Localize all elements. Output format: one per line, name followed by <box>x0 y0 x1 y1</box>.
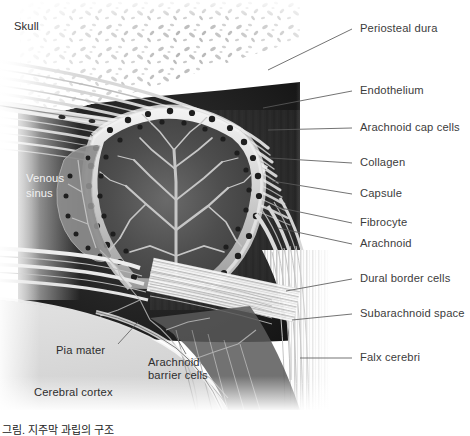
label-arachnoid: Arachnoid <box>360 237 412 250</box>
label-dural-border-cells: Dural border cells <box>360 272 450 285</box>
label-arachnoid-barrier-cells-line2: barrier cells <box>148 369 208 382</box>
right-vignette <box>296 0 336 410</box>
label-skull: Skull <box>14 20 39 33</box>
label-cerebral-cortex: Cerebral cortex <box>34 386 113 399</box>
label-arachnoid-barrier-cells-line1: Arachnoid <box>148 356 200 369</box>
figure-caption: 그림. 지주막 과립의 구조 <box>2 421 114 436</box>
anatomical-figure: Skull Venous sinus Pia mater Arachnoid b… <box>0 0 470 436</box>
label-falx-cerebri: Falx cerebri <box>360 351 420 364</box>
label-collagen: Collagen <box>360 156 405 169</box>
left-vignette <box>0 0 40 410</box>
top-vignette <box>0 0 330 22</box>
label-arachnoid-cap-cells: Arachnoid cap cells <box>360 121 460 134</box>
label-capsule: Capsule <box>360 187 402 200</box>
label-fibrocyte: Fibrocyte <box>360 216 407 229</box>
label-venous-sinus-line2: sinus <box>26 187 53 200</box>
label-pia-mater: Pia mater <box>56 344 105 357</box>
label-subarachnoid-space: Subarachnoid space <box>360 307 465 320</box>
label-periosteal-dura: Periosteal dura <box>360 22 438 35</box>
label-endothelium: Endothelium <box>360 84 424 97</box>
label-venous-sinus-line1: Venous <box>26 172 64 185</box>
